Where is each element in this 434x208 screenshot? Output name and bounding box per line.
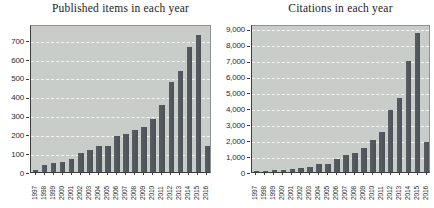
x-tick-label: 2012 (166, 176, 174, 200)
y-tick-label: 0 (215, 169, 245, 178)
x-tick-label: 2014 (404, 176, 412, 200)
bar-2007 (123, 134, 129, 172)
x-tick-label: 2011 (377, 176, 385, 200)
x-tick-mark (318, 173, 319, 175)
citation-report-figure: Published items in each year 01002003004… (0, 0, 434, 208)
x-tick-mark (206, 173, 207, 175)
x-tick-mark (71, 173, 72, 175)
x-tick-label: 2004 (94, 176, 102, 200)
x-tick-label: 2003 (85, 176, 93, 200)
citations-chart: Citations in each year 01,0002,0003,0004… (217, 0, 434, 208)
x-tick-mark (152, 173, 153, 175)
x-tick-mark (170, 173, 171, 175)
bar-1999 (272, 170, 278, 172)
x-tick-mark (300, 173, 301, 175)
x-tick-mark (255, 173, 256, 175)
x-tick-label: 2004 (314, 176, 322, 200)
x-tick-label: 2016 (202, 176, 210, 200)
x-tick-mark (116, 173, 117, 175)
x-tick-mark (161, 173, 162, 175)
x-tick-mark (98, 173, 99, 175)
gridline (31, 117, 210, 118)
x-tick-mark (345, 173, 346, 175)
bar-2012 (169, 82, 175, 172)
x-tick-mark (134, 173, 135, 175)
y-tick-label: 200 (0, 131, 24, 140)
y-tick-mark (26, 135, 29, 136)
y-tick-label: 0 (0, 169, 24, 178)
bar-2016 (424, 142, 430, 172)
x-tick-mark (336, 173, 337, 175)
x-tick-label: 1998 (40, 176, 48, 200)
gridline (31, 42, 210, 43)
x-tick-mark (399, 173, 400, 175)
x-tick-label: 1997 (251, 176, 259, 200)
x-tick-label: 1999 (49, 176, 57, 200)
x-tick-label: 2007 (341, 176, 349, 200)
x-tick-label: 2012 (386, 176, 394, 200)
x-tick-label: 2003 (305, 176, 313, 200)
gridline (31, 155, 210, 156)
bar-2001 (290, 169, 296, 172)
bar-2013 (178, 71, 184, 172)
bar-1997 (33, 170, 39, 172)
bar-2002 (298, 168, 304, 172)
x-tick-label: 2009 (139, 176, 147, 200)
x-tick-mark (363, 173, 364, 175)
gridline (31, 98, 210, 99)
x-tick-mark (44, 173, 45, 175)
x-tick-mark (89, 173, 90, 175)
gridline (252, 142, 429, 143)
bar-2002 (78, 153, 84, 172)
y-tick-label: 6,000 (215, 73, 245, 82)
y-tick-label: 600 (0, 56, 24, 65)
x-tick-label: 2002 (296, 176, 304, 200)
y-tick-mark (247, 109, 250, 110)
y-tick-mark (247, 157, 250, 158)
x-tick-label: 2006 (332, 176, 340, 200)
bar-2015 (415, 33, 421, 172)
x-tick-label: 2000 (58, 176, 66, 200)
gridline (31, 136, 210, 137)
bar-2008 (132, 130, 138, 172)
x-tick-label: 2015 (413, 176, 421, 200)
bar-1999 (51, 163, 57, 172)
bar-2005 (105, 146, 111, 172)
y-tick-label: 500 (0, 74, 24, 83)
bar-2010 (150, 119, 156, 172)
x-tick-mark (417, 173, 418, 175)
bar-2011 (379, 132, 385, 172)
bar-2012 (388, 110, 394, 172)
y-tick-mark (247, 173, 250, 174)
published-items-title: Published items in each year (30, 2, 211, 14)
y-tick-label: 7,000 (215, 57, 245, 66)
x-tick-mark (309, 173, 310, 175)
y-tick-label: 700 (0, 37, 24, 46)
y-tick-label: 300 (0, 112, 24, 121)
y-tick-label: 4,000 (215, 105, 245, 114)
x-tick-label: 2013 (175, 176, 183, 200)
x-tick-label: 2014 (184, 176, 192, 200)
bar-2014 (187, 47, 193, 172)
x-tick-label: 2007 (121, 176, 129, 200)
bar-1998 (42, 165, 48, 172)
x-tick-label: 2011 (157, 176, 165, 200)
x-tick-mark (426, 173, 427, 175)
x-tick-mark (372, 173, 373, 175)
x-tick-label: 2005 (323, 176, 331, 200)
plot-area (30, 25, 211, 173)
y-tick-mark (247, 125, 250, 126)
y-tick-label: 9,000 (215, 25, 245, 34)
bar-2010 (370, 140, 376, 172)
y-tick-mark (247, 46, 250, 47)
x-tick-mark (282, 173, 283, 175)
x-tick-label: 1999 (269, 176, 277, 200)
gridline (252, 158, 429, 159)
x-tick-mark (188, 173, 189, 175)
x-tick-label: 2015 (193, 176, 201, 200)
y-tick-mark (26, 154, 29, 155)
bar-2005 (325, 164, 331, 172)
x-tick-mark (291, 173, 292, 175)
bar-2006 (114, 136, 120, 172)
x-tick-mark (327, 173, 328, 175)
